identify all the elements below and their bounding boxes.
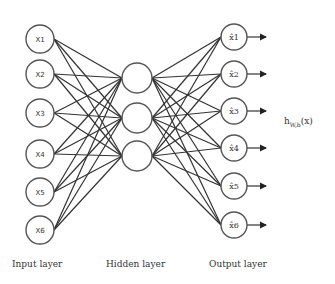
- edge-input-hidden: [54, 39, 122, 78]
- edge-hidden-output: [152, 156, 221, 186]
- output-node-label: x̂1: [229, 33, 239, 42]
- edge-input-hidden: [54, 39, 122, 156]
- edge-input-hidden: [54, 156, 122, 230]
- hidden-node: [122, 103, 152, 133]
- edge-hidden-output: [152, 156, 221, 225]
- hypothesis-formula: hW,b(x): [284, 116, 313, 128]
- formula-subscript: W,b: [290, 121, 301, 128]
- formula-arg: (x): [301, 116, 313, 126]
- output-node-label: x̂6: [229, 221, 239, 230]
- input-node-label: X2: [35, 71, 44, 79]
- input-node-label: X5: [35, 189, 44, 197]
- edge-hidden-output: [152, 37, 221, 78]
- output-node-label: x̂4: [229, 144, 239, 153]
- hidden-node: [122, 141, 152, 171]
- output-node-label: x̂3: [229, 107, 239, 116]
- output-node-label: x̂5: [229, 182, 239, 191]
- input-layer-label: Input layer: [12, 259, 62, 269]
- input-node-label: X3: [35, 110, 44, 118]
- neural-network-diagram: X1X2X3X4X5X6x̂1x̂2x̂3x̂4x̂5x̂6: [0, 0, 335, 284]
- hidden-node: [122, 63, 152, 93]
- input-node-label: X4: [35, 151, 45, 159]
- edge-input-hidden: [54, 78, 122, 154]
- input-node-label: X1: [35, 36, 44, 44]
- output-node-label: x̂2: [229, 70, 239, 79]
- hidden-layer-label: Hidden layer: [106, 259, 165, 269]
- edge-input-hidden: [54, 39, 122, 118]
- output-layer-label: Output layer: [209, 259, 267, 269]
- input-node-label: X6: [35, 227, 45, 235]
- edge-input-hidden: [54, 74, 122, 78]
